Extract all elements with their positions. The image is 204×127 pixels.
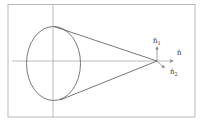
upper-tangent-line xyxy=(54,27,157,62)
cone-diagram: n̂1 n̂ n̂2 xyxy=(0,0,204,127)
label-n1: n̂1 xyxy=(153,37,161,46)
axis-arrowhead-icon xyxy=(170,59,174,63)
ellipse-base xyxy=(27,27,81,101)
label-n2: n̂2 xyxy=(170,68,178,77)
label-n: n̂ xyxy=(177,49,182,57)
lower-tangent-line xyxy=(60,61,157,100)
n2-vector xyxy=(157,61,163,67)
n1-arrowhead-icon xyxy=(156,46,159,50)
